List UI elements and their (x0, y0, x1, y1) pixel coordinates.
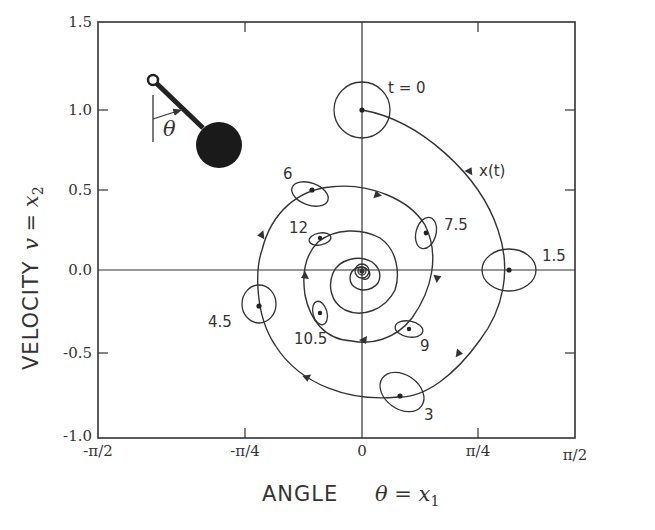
y-tick-1.0: 1.0 (68, 101, 92, 119)
label-t9: 9 (420, 337, 430, 355)
ellipse-t12 (308, 231, 332, 247)
y-tick-marks (98, 110, 575, 353)
curve-label: x(t) (479, 162, 505, 180)
trajectory-curve (258, 110, 505, 398)
x-tick-neg-pi-2: -π/2 (83, 442, 113, 460)
svg-text:v = x2: v = x2 (19, 186, 46, 250)
x-tick-pi-2: π/2 (563, 446, 587, 464)
label-t3: 3 (424, 406, 434, 424)
ellipse-t10.5 (310, 300, 330, 327)
y-tick-0.5: 0.5 (68, 181, 92, 199)
svg-text:θ = x1: θ = x1 (375, 482, 439, 509)
y-tick-neg0.5: -0.5 (63, 344, 92, 362)
label-t10.5: 10.5 (294, 330, 327, 348)
label-t0: t = 0 (388, 79, 426, 97)
plot-frame (98, 22, 575, 438)
ellipse-t3 (373, 364, 432, 419)
pendulum-inset-icon: θ (148, 75, 242, 168)
phase-plane-chart: 1.5 1.0 0.5 0.0 -0.5 -1.0 -π/2 -π/4 0 π/… (0, 0, 655, 530)
ellipse-t4.5 (242, 285, 276, 323)
label-t4.5: 4.5 (208, 313, 232, 331)
x-tick-0: 0 (357, 442, 367, 460)
y-tick-1.5: 1.5 (68, 13, 92, 31)
ellipse-t7.5 (412, 215, 440, 251)
x-tick-neg-pi-4: -π/4 (230, 442, 260, 460)
x-axis-title: ANGLE θ = x1 (262, 482, 439, 509)
x-tick-pi-4: π/4 (466, 442, 490, 460)
label-t12: 12 (289, 219, 308, 237)
svg-text:ANGLE: ANGLE (262, 482, 338, 506)
y-tick-0.0: 0.0 (68, 261, 92, 279)
ellipse-t6 (288, 177, 331, 211)
theta-inset-label: θ (163, 117, 176, 141)
label-t6: 6 (283, 165, 293, 183)
direction-arrows (257, 166, 476, 382)
y-axis-title: VELOCITY v = x2 (19, 186, 46, 370)
label-t1.5: 1.5 (542, 247, 566, 265)
svg-text:VELOCITY: VELOCITY (19, 260, 43, 370)
label-t7.5: 7.5 (444, 216, 468, 234)
